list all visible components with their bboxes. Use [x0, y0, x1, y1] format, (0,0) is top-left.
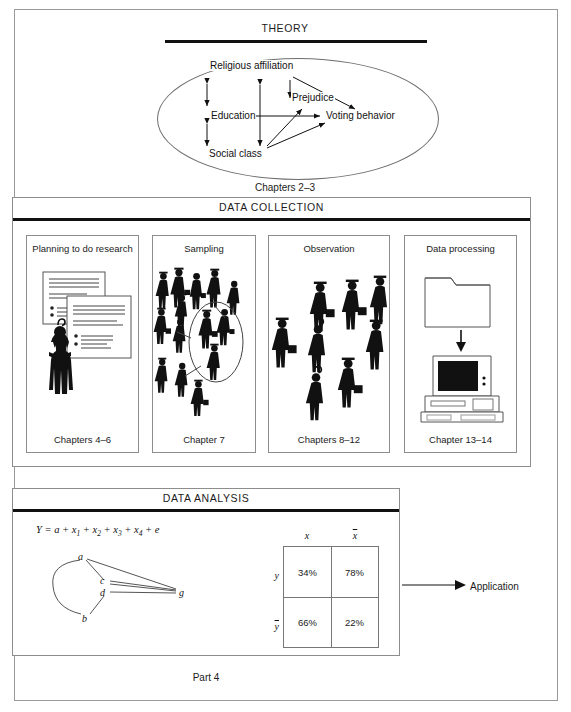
crosstab-cell-ybar-x: 66% [284, 597, 331, 647]
panel-caption-planning: Chapters 4–6 [27, 434, 138, 445]
data-analysis-section-title: DATA ANALYSIS [12, 492, 400, 504]
crosstab-row-header-ybar: y [257, 621, 279, 632]
theory-title-rule [165, 40, 427, 43]
regression-formula: Y = a + x1 + x2 + x3 + x4 + e [36, 524, 159, 538]
panel-label-sampling: Sampling [153, 243, 255, 255]
data-analysis-title-rule [13, 509, 399, 512]
crosstab-cell-y-xbar: 78% [331, 547, 378, 597]
svg-text:g: g [179, 587, 184, 598]
crosstab-cell-ybar-xbar: 22% [331, 597, 378, 647]
panel-label-observation: Observation [269, 243, 389, 255]
svg-text:d: d [100, 587, 106, 598]
data-processing-artwork [405, 266, 516, 426]
panel-label-planning: Planning to do research [27, 243, 138, 255]
theory-section: THEORY [40, 22, 530, 202]
data-collection-section: DATA COLLECTION Planning to do research [12, 197, 531, 467]
sampling-artwork [153, 266, 255, 426]
data-collection-panel-observation: Observation Chapters 8–12 [268, 235, 390, 453]
svg-text:b: b [82, 613, 87, 624]
panel-caption-observation: Chapters 8–12 [269, 434, 389, 445]
application-label: Application [470, 581, 519, 592]
data-collection-title-rule [13, 218, 530, 221]
crosstab-cell-y-x: 34% [284, 547, 331, 597]
crosstab-row-header-y: y [257, 570, 279, 581]
planning-artwork [27, 266, 138, 426]
application-arrow [400, 575, 470, 595]
theory-section-title: THEORY [40, 22, 530, 34]
formula-equals: = [44, 524, 51, 535]
panel-label-data-processing: Data processing [405, 243, 516, 255]
observation-artwork [269, 266, 389, 426]
crosstab-grid: 34% 78% 66% 22% [283, 546, 379, 648]
theory-caption: Chapters 2–3 [40, 182, 530, 193]
sociogram-diagram: a b c d g [42, 548, 207, 643]
data-collection-panel-data-processing: Data processing [404, 235, 517, 453]
data-collection-panel-sampling: Sampling [152, 235, 256, 453]
panel-caption-sampling: Chapter 7 [153, 434, 255, 445]
crosstab-col-header-xbar: x [331, 530, 379, 541]
theory-node-voting-behavior: Voting behavior [325, 110, 396, 121]
svg-text:a: a [78, 551, 83, 562]
svg-text:c: c [100, 575, 105, 586]
theory-node-social-class: Social class [208, 148, 263, 159]
data-analysis-section: DATA ANALYSIS Y = a + x1 + x2 + x3 + x4 … [12, 488, 400, 656]
formula-lhs: Y [36, 524, 42, 535]
crosstab-col-header-x: x [283, 530, 331, 541]
data-collection-panel-planning: Planning to do research [26, 235, 139, 453]
crosstab-table: x x y y 34% 78% 66% 22% [257, 530, 379, 648]
theory-node-prejudice: Prejudice [291, 92, 335, 103]
theory-node-religious-affiliation: Religious affiliation [209, 60, 294, 71]
figure-bottom-caption: Part 4 [12, 672, 400, 683]
theory-node-education: Education [210, 110, 256, 121]
data-collection-section-title: DATA COLLECTION [12, 201, 531, 213]
panel-caption-data-processing: Chapter 13–14 [405, 434, 516, 445]
